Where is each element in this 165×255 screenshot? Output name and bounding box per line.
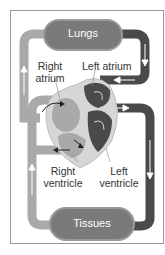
lungs-label: Lungs xyxy=(44,27,122,39)
right-ventricle-label: Right ventricle xyxy=(38,165,88,189)
right-ventricle-label-line2: ventricle xyxy=(38,177,88,189)
right-atrium-label-line1: Right xyxy=(32,60,68,72)
heart xyxy=(42,78,118,168)
right-atrium-label: Right atrium xyxy=(32,60,68,84)
right-atrium-label-line2: atrium xyxy=(32,72,68,84)
right-ventricle-label-line1: Right xyxy=(38,165,88,177)
tissues-label: Tissues xyxy=(50,217,134,229)
left-ventricle-label-line1: Left xyxy=(94,165,144,177)
left-ventricle-label: Left ventricle xyxy=(94,165,144,189)
left-atrium-label: Left atrium xyxy=(82,60,142,72)
left-ventricle-label-line2: ventricle xyxy=(94,177,144,189)
